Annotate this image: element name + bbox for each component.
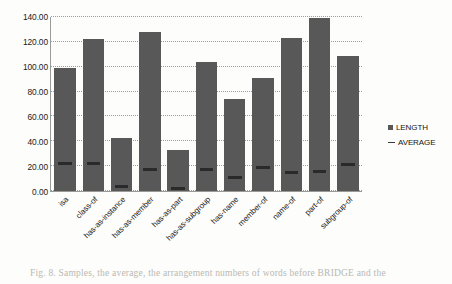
y-axis-tick-label: 40.00 [2, 138, 48, 146]
figure-container: 0.0020.0040.0060.0080.00100.00120.00140.… [0, 0, 452, 284]
bar-group [108, 17, 136, 191]
y-axis-tick-label: 140.00 [2, 13, 48, 21]
legend-label: AVERAGE [398, 138, 435, 147]
average-marker [341, 163, 355, 166]
average-marker [256, 166, 270, 169]
average-marker [143, 168, 157, 171]
y-axis-tick-label: 100.00 [2, 63, 48, 71]
legend-square-icon [388, 125, 393, 130]
average-marker [115, 185, 129, 188]
bar-length [83, 39, 104, 191]
bar-chart: 0.0020.0040.0060.0080.00100.00120.00140.… [0, 0, 452, 258]
plot-area [50, 17, 362, 192]
bar-length [281, 38, 302, 191]
bar-group [277, 17, 305, 191]
chart-legend: LENGTHAVERAGE [388, 120, 452, 150]
bar-group [221, 17, 249, 191]
bar-length [309, 18, 330, 191]
average-marker [285, 171, 299, 174]
average-marker [171, 187, 185, 190]
average-marker [200, 168, 214, 171]
bar-length [252, 78, 273, 191]
y-axis-tick-label: 0.00 [2, 188, 48, 196]
average-marker [313, 170, 327, 173]
bar-group [249, 17, 277, 191]
legend-line-icon [388, 142, 395, 143]
y-axis-tick-label: 60.00 [2, 113, 48, 121]
bar-group [164, 17, 192, 191]
average-marker [87, 162, 101, 165]
bar-length [139, 32, 160, 191]
bar-group [334, 17, 362, 191]
y-axis-tick-label: 80.00 [2, 88, 48, 96]
bar-group [192, 17, 220, 191]
legend-item: AVERAGE [388, 135, 452, 150]
y-axis-tick-label: 20.00 [2, 163, 48, 171]
bar-group [305, 17, 333, 191]
bar-group [79, 17, 107, 191]
x-axis: isaclass-ofhas-as-instancehas-as-memberh… [50, 192, 362, 258]
bar-group [136, 17, 164, 191]
y-axis: 0.0020.0040.0060.0080.00100.00120.00140.… [0, 17, 48, 192]
bar-length [54, 68, 75, 191]
legend-label: LENGTH [396, 123, 428, 132]
y-axis-tick-label: 120.00 [2, 38, 48, 46]
bar-series-group [51, 17, 362, 191]
bar-length [167, 150, 188, 191]
figure-caption-clip: Fig. 8. Samples, the average, the arrang… [0, 268, 452, 284]
bar-length [337, 56, 358, 191]
figure-caption: Fig. 8. Samples, the average, the arrang… [30, 268, 430, 278]
average-marker [228, 176, 242, 179]
bar-length [196, 62, 217, 191]
average-marker [58, 162, 72, 165]
bar-group [51, 17, 79, 191]
bar-length [111, 138, 132, 191]
legend-item: LENGTH [388, 120, 452, 135]
